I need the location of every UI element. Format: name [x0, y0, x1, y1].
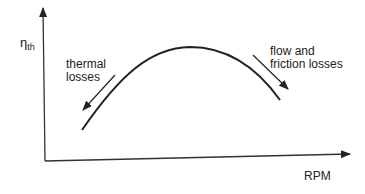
x-axis [45, 154, 350, 161]
x-axis-label: RPM [304, 170, 331, 183]
efficiency-curve [82, 47, 280, 130]
y-axis [43, 8, 45, 161]
friction-losses-label: flow and friction losses [270, 45, 343, 71]
y-axis-label: ηth [20, 36, 35, 54]
efficiency-diagram [0, 0, 365, 194]
thermal-losses-label: thermal losses [66, 58, 106, 84]
